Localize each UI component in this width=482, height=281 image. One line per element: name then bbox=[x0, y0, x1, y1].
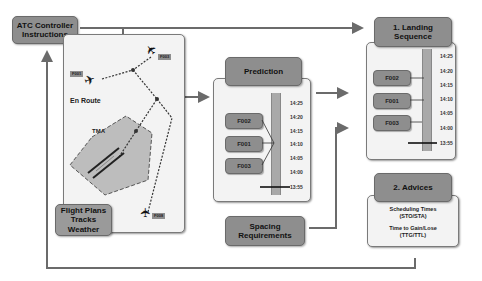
landing-time: 14:00 bbox=[440, 125, 453, 131]
landing-time: 13:55 bbox=[440, 140, 453, 146]
landing-time: 14:10 bbox=[440, 96, 453, 102]
landing-time: 14:15 bbox=[440, 82, 453, 88]
advice-scheduling-times: Scheduling Times bbox=[368, 206, 458, 213]
advices-title: 2. Advices bbox=[374, 173, 452, 202]
advice-sto-sta: (STO/STA) bbox=[368, 213, 458, 220]
advice-time-gain-lose: Time to Gain/Lose bbox=[368, 225, 458, 232]
advice-ttg-ttl: (TTG/TTL) bbox=[368, 232, 458, 239]
advices-panel: Scheduling Times (STO/STA) Time to Gain/… bbox=[367, 195, 459, 247]
landing-time: 14:05 bbox=[440, 110, 453, 116]
landing-time: 14:20 bbox=[440, 68, 453, 74]
landing-time: 14:25 bbox=[440, 53, 453, 59]
advices-title-text: 2. Advices bbox=[393, 183, 432, 192]
